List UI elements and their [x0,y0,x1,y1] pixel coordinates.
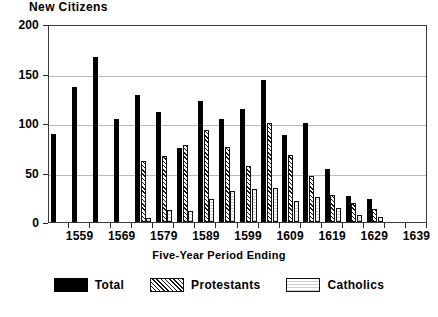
y-tick-label: 150 [18,68,39,82]
gridline [49,175,426,176]
x-tick-label: 1619 [319,229,347,243]
x-tick-label: 1589 [192,229,220,243]
x-tick-label: 1629 [361,229,389,243]
bar-total [325,169,330,222]
bar-total [367,199,372,222]
bar-total [198,101,203,222]
legend-label: Total [95,278,124,292]
x-tick-mark [279,223,280,228]
bar-protestants [225,147,230,222]
bar-total [114,119,119,222]
x-tick-mark [215,223,216,228]
x-tick-label: 1569 [108,229,136,243]
y-tick-label: 0 [32,216,39,230]
bar-protestants [372,209,377,222]
bar-total [93,57,98,222]
bar-total [240,109,245,222]
bar-protestants [309,176,314,222]
plot-area [48,25,427,223]
x-tick-mark [152,223,153,228]
chart-legend: TotalProtestantsCatholics [0,278,438,292]
bar-total [51,134,56,222]
x-tick-mark [173,223,174,228]
gridline [49,125,426,126]
bar-catholics [209,199,214,222]
y-tick-label: 100 [18,117,39,131]
bar-catholics [188,211,193,222]
bar-protestants [351,203,356,222]
bar-total [72,87,77,222]
bar-catholics [146,218,151,222]
x-tick-mark [300,223,301,228]
x-axis-labels: 155915691579158915991609161916291639 [48,229,427,247]
x-tick-label: 1559 [66,229,94,243]
bar-protestants [204,130,209,222]
x-tick-mark [194,223,195,228]
bar-protestants [330,195,335,222]
legend-entry: Total [54,278,124,292]
gridline [49,76,426,77]
chart-figure: New Citizens 050100150200 15591569157915… [0,0,438,317]
bar-protestants [141,161,146,222]
x-tick-mark [384,223,385,228]
x-tick-mark [363,223,364,228]
legend-label: Catholics [327,278,384,292]
bar-catholics [167,210,172,222]
bar-catholics [336,208,341,222]
x-axis-title: Five-Year Period Ending [0,249,438,261]
y-axis: 050100150200 [0,25,44,223]
bar-total [346,196,351,222]
x-tick-mark [426,223,427,228]
bar-protestants [246,166,251,222]
solid-black-swatch [54,278,88,292]
x-tick-mark [68,223,69,228]
x-tick-label: 1639 [403,229,431,243]
bar-catholics [294,201,299,222]
bar-protestants [183,145,188,222]
y-tick-label: 50 [25,167,39,181]
y-tick-label: 200 [18,18,39,32]
x-tick-mark [237,223,238,228]
bar-catholics [252,189,257,222]
bar-catholics [315,197,320,222]
diagonal-hatch-swatch [150,278,184,292]
bar-total [303,123,308,222]
bar-total [219,119,224,222]
bar-catholics [357,215,362,222]
x-tick-mark [110,223,111,228]
x-tick-mark [342,223,343,228]
bar-total [282,135,287,222]
bar-total [261,80,266,222]
x-tick-mark [131,223,132,228]
bar-catholics [230,191,235,222]
bar-protestants [162,156,167,222]
chart-title: New Citizens [29,0,108,14]
legend-entry: Catholics [286,278,384,292]
x-tick-label: 1579 [150,229,178,243]
x-tick-mark [405,223,406,228]
x-tick-mark [321,223,322,228]
bar-protestants [267,123,272,222]
light-stipple-swatch [286,278,320,292]
bar-protestants [288,155,293,222]
x-tick-mark [89,223,90,228]
bar-total [177,148,182,222]
legend-entry: Protestants [150,278,260,292]
bar-catholics [378,217,383,222]
bar-catholics [273,188,278,222]
legend-label: Protestants [191,278,260,292]
bar-total [135,95,140,222]
x-tick-label: 1599 [234,229,262,243]
bar-total [156,112,161,222]
x-tick-label: 1609 [276,229,304,243]
x-tick-mark [258,223,259,228]
